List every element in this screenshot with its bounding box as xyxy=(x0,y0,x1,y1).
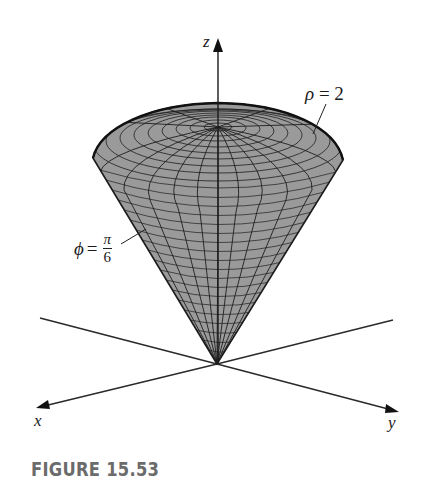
y-axis-back xyxy=(217,320,393,364)
phi-symbol: ϕ xyxy=(74,239,84,258)
y-axis xyxy=(217,364,392,410)
rho-value: = 2 xyxy=(314,83,344,104)
z-axis-label: z xyxy=(203,33,210,50)
y-axis-label: y xyxy=(388,414,396,431)
x-axis-back xyxy=(40,318,217,364)
x-axis-label: x xyxy=(34,412,42,429)
x-axis-arrowhead-icon xyxy=(36,400,50,409)
y-axis-arrowhead-icon xyxy=(385,404,399,413)
rho-symbol: ρ xyxy=(305,83,314,104)
sphere-equation-label: ρ = 2 xyxy=(305,84,344,103)
pi-over-six-fraction: π 6 xyxy=(103,232,113,265)
fraction-numerator: π xyxy=(103,232,113,249)
phi-equals: = xyxy=(87,239,98,258)
ice-cream-cone-diagram xyxy=(0,0,422,498)
fraction-denominator: 6 xyxy=(104,249,112,265)
figure-caption: FIGURE 15.53 xyxy=(31,458,159,480)
cone-equation-label: ϕ = π 6 xyxy=(74,232,112,265)
x-axis xyxy=(44,364,217,406)
z-axis-arrowhead-icon xyxy=(213,38,223,52)
